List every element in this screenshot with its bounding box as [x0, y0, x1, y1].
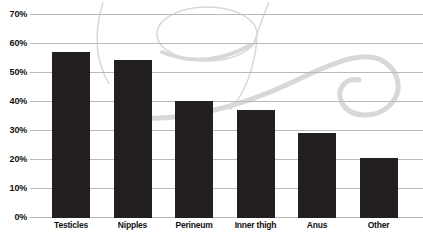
x-axis-category-label: Nipples [102, 220, 164, 230]
y-axis-tick-label: 40% [0, 96, 27, 106]
x-axis-category-label: Perineum [163, 220, 225, 230]
y-axis-tick-label: 10% [0, 183, 27, 193]
bar-perineum [175, 101, 213, 218]
gridline-70 [30, 14, 423, 15]
y-axis-tick-label: 20% [0, 154, 27, 164]
bar-other [360, 158, 398, 218]
bar-anus [298, 133, 336, 218]
flourish-circle [157, 7, 257, 61]
y-axis-tick-label: 70% [0, 9, 27, 19]
x-axis-category-label: Other [348, 220, 410, 230]
bar-nipples [114, 60, 152, 218]
bar-inner-thigh [237, 110, 275, 218]
x-axis-category-label: Anus [286, 220, 348, 230]
flourish-tail-up [253, 2, 269, 46]
flourish-crescent [162, 45, 251, 60]
x-axis-category-label: Inner thigh [225, 220, 287, 230]
bar-testicles [52, 52, 90, 218]
gridline-60 [30, 43, 423, 44]
y-axis-tick-label: 50% [0, 67, 27, 77]
bar-chart: 70%60%50%40%30%20%10%0%TesticlesNipplesP… [0, 0, 423, 237]
flourish-tail-down [230, 40, 257, 110]
y-axis-tick-label: 60% [0, 38, 27, 48]
y-axis-tick-label: 0% [0, 212, 27, 222]
x-axis-category-label: Testicles [40, 220, 102, 230]
y-axis-tick-label: 30% [0, 125, 27, 135]
